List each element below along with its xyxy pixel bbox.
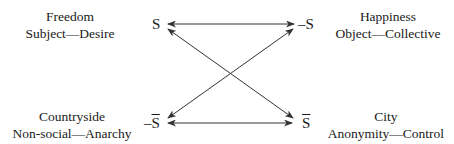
symbol-not-s: –S xyxy=(298,16,314,32)
symbol-not-s-bar-letter: S xyxy=(152,115,160,131)
symbol-not-s-letter: S xyxy=(306,16,314,32)
symbol-s-bar: S xyxy=(302,115,310,131)
bottom-right-title: City xyxy=(322,108,450,125)
symbol-s: S xyxy=(152,16,160,32)
top-right-label: Happiness Object—Collective xyxy=(334,8,442,42)
top-right-subtitle: Object—Collective xyxy=(334,25,442,42)
bottom-left-subtitle: Non-social—Anarchy xyxy=(4,125,140,142)
bottom-right-label: City Anonymity—Control xyxy=(322,108,450,142)
symbol-not-s-bar-prefix: – xyxy=(144,115,152,131)
symbol-s-letter: S xyxy=(152,16,160,32)
bottom-right-subtitle: Anonymity—Control xyxy=(322,125,450,142)
bottom-left-label: Countryside Non-social—Anarchy xyxy=(4,108,140,142)
bottom-left-title: Countryside xyxy=(4,108,140,125)
top-right-title: Happiness xyxy=(334,8,442,25)
symbol-not-s-bar: –S xyxy=(144,115,160,131)
symbol-s-bar-letter: S xyxy=(302,115,310,131)
symbol-not-s-prefix: – xyxy=(298,16,306,32)
top-left-title: Freedom xyxy=(22,8,118,25)
top-left-label: Freedom Subject—Desire xyxy=(22,8,118,42)
top-left-subtitle: Subject—Desire xyxy=(22,25,118,42)
